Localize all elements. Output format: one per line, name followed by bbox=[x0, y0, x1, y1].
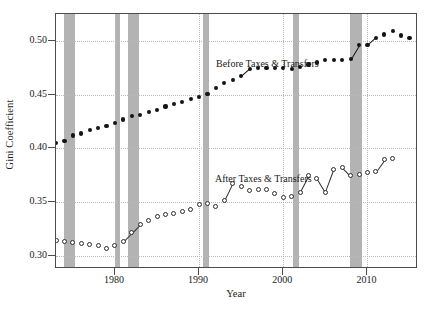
y-axis-tick-mark bbox=[48, 94, 55, 95]
y-axis-tick-mark bbox=[48, 255, 55, 256]
data-point-before-taxes bbox=[407, 36, 411, 40]
series-annotation-after-taxes: After Taxes & Transfers bbox=[215, 173, 312, 184]
data-point-before-taxes bbox=[79, 131, 83, 135]
data-point-after-taxes bbox=[70, 240, 75, 245]
data-point-after-taxes bbox=[155, 214, 160, 219]
data-point-after-taxes bbox=[323, 190, 328, 195]
data-point-after-taxes bbox=[146, 218, 151, 223]
data-point-after-taxes bbox=[188, 207, 193, 212]
data-point-before-taxes bbox=[197, 95, 201, 99]
gridline-vertical bbox=[115, 14, 116, 267]
gridline-horizontal bbox=[56, 41, 416, 42]
y-axis-tick-mark bbox=[48, 40, 55, 41]
series-annotation-before-taxes: Before Taxes & Transfers bbox=[216, 58, 319, 69]
data-point-before-taxes bbox=[205, 92, 209, 96]
recession-band bbox=[203, 14, 209, 267]
data-point-after-taxes bbox=[272, 191, 277, 196]
y-axis-title-text: Gini Coefficient bbox=[5, 99, 16, 169]
data-point-before-taxes bbox=[382, 32, 386, 36]
y-axis-tick-label: 0.50 bbox=[7, 34, 47, 45]
y-axis-tick-mark bbox=[48, 147, 55, 148]
gridline-vertical bbox=[283, 14, 284, 267]
data-point-before-taxes bbox=[189, 97, 193, 101]
data-point-before-taxes bbox=[332, 58, 336, 62]
data-point-after-taxes bbox=[197, 202, 202, 207]
data-point-after-taxes bbox=[390, 156, 395, 161]
data-point-before-taxes bbox=[113, 121, 117, 125]
recession-band bbox=[128, 14, 140, 267]
gridline-horizontal bbox=[56, 148, 416, 149]
data-point-before-taxes bbox=[121, 117, 125, 121]
gridline-horizontal bbox=[56, 202, 416, 203]
data-point-after-taxes bbox=[205, 201, 210, 206]
data-point-before-taxes bbox=[222, 81, 226, 85]
x-axis-tick-label: 1990 bbox=[173, 274, 223, 285]
plot-area: Before Taxes & Transfers After Taxes & T… bbox=[55, 13, 417, 268]
data-point-after-taxes bbox=[331, 167, 336, 172]
data-point-after-taxes bbox=[62, 239, 67, 244]
data-point-after-taxes bbox=[373, 169, 378, 174]
data-point-before-taxes bbox=[180, 100, 184, 104]
data-point-after-taxes bbox=[55, 238, 59, 243]
data-point-before-taxes bbox=[138, 113, 142, 117]
x-axis-tick-label: 2010 bbox=[341, 274, 391, 285]
data-point-after-taxes bbox=[298, 190, 303, 195]
data-point-after-taxes bbox=[96, 243, 101, 248]
data-point-after-taxes bbox=[382, 157, 387, 162]
y-axis-tick-label: 0.30 bbox=[7, 249, 47, 260]
gridline-vertical bbox=[367, 14, 368, 267]
data-point-after-taxes bbox=[365, 170, 370, 175]
data-point-before-taxes bbox=[147, 110, 151, 114]
data-point-after-taxes bbox=[264, 187, 269, 192]
data-point-before-taxes bbox=[214, 86, 218, 90]
data-point-before-taxes bbox=[239, 74, 243, 78]
data-point-after-taxes bbox=[256, 187, 261, 192]
data-point-before-taxes bbox=[104, 124, 108, 128]
data-point-before-taxes bbox=[231, 78, 235, 82]
data-point-after-taxes bbox=[79, 241, 84, 246]
data-point-after-taxes bbox=[138, 222, 143, 227]
data-point-after-taxes bbox=[239, 184, 244, 189]
data-point-before-taxes bbox=[340, 58, 344, 62]
data-point-before-taxes bbox=[323, 58, 327, 62]
data-point-after-taxes bbox=[281, 195, 286, 200]
data-point-after-taxes bbox=[87, 242, 92, 247]
data-point-before-taxes bbox=[62, 139, 66, 143]
data-point-after-taxes bbox=[180, 209, 185, 214]
data-point-after-taxes bbox=[314, 176, 319, 181]
recession-band bbox=[293, 14, 299, 267]
data-point-before-taxes bbox=[88, 128, 92, 132]
gini-coefficient-chart: Gini Coefficient Before Taxes & Transfer… bbox=[0, 0, 431, 317]
data-point-before-taxes bbox=[96, 126, 100, 130]
data-point-before-taxes bbox=[374, 36, 378, 40]
data-point-after-taxes bbox=[213, 204, 218, 209]
data-point-before-taxes bbox=[55, 141, 58, 145]
data-point-before-taxes bbox=[399, 33, 403, 37]
y-axis-tick-mark bbox=[48, 201, 55, 202]
x-axis-title: Year bbox=[55, 288, 417, 299]
data-point-before-taxes bbox=[155, 108, 159, 112]
series-connector-segment bbox=[325, 169, 334, 192]
gridline-horizontal bbox=[56, 256, 416, 257]
y-axis-tick-label: 0.35 bbox=[7, 195, 47, 206]
data-point-before-taxes bbox=[391, 29, 395, 33]
data-point-after-taxes bbox=[121, 239, 126, 244]
data-point-before-taxes bbox=[71, 133, 75, 137]
data-point-after-taxes bbox=[104, 246, 109, 251]
y-axis-tick-label: 0.40 bbox=[7, 141, 47, 152]
data-point-after-taxes bbox=[247, 188, 252, 193]
x-axis-title-text: Year bbox=[226, 288, 245, 299]
gridline-vertical bbox=[199, 14, 200, 267]
data-point-after-taxes bbox=[171, 211, 176, 216]
data-point-before-taxes bbox=[172, 102, 176, 106]
data-point-after-taxes bbox=[340, 165, 345, 170]
x-axis-tick-label: 2000 bbox=[257, 274, 307, 285]
data-point-after-taxes bbox=[357, 172, 362, 177]
y-axis-tick-label: 0.45 bbox=[7, 88, 47, 99]
data-point-before-taxes bbox=[349, 57, 353, 61]
data-point-after-taxes bbox=[163, 212, 168, 217]
gridline-horizontal bbox=[56, 95, 416, 96]
data-point-before-taxes bbox=[365, 43, 369, 47]
x-axis-tick-label: 1980 bbox=[89, 274, 139, 285]
data-point-before-taxes bbox=[163, 104, 167, 108]
